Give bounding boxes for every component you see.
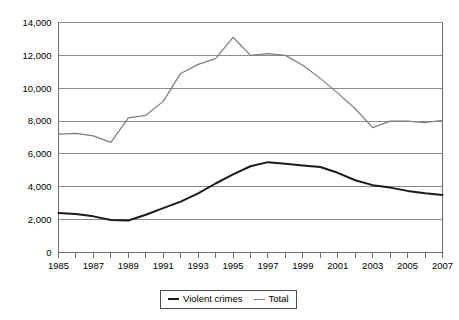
legend-label-violent-crimes: Violent crimes [183,293,243,305]
y-tick-label: 4,000 [28,181,52,192]
legend-item-violent-crimes: Violent crimes [168,293,243,305]
x-tick-label: 1993 [188,260,209,271]
x-tick-label: 2007 [432,260,453,271]
line-chart: 02,0004,0006,0008,00010,00012,00014,000 … [0,0,459,320]
x-tick-label: 1991 [153,260,174,271]
x-tick-label: 1995 [222,260,243,271]
x-tick-label: 1999 [292,260,313,271]
y-tick-label: 2,000 [28,214,52,225]
x-tick-label: 2003 [362,260,383,271]
y-tick-label: 14,000 [22,17,51,28]
legend-line-icon-total [254,299,265,300]
x-tick-label: 1987 [83,260,104,271]
x-tick-label: 1985 [48,260,69,271]
legend-item-total: Total [254,293,289,305]
y-tick-label: 0 [46,247,51,258]
y-tick-label: 10,000 [22,83,51,94]
y-tick-label: 6,000 [28,148,52,159]
gridlines [59,23,443,220]
x-axis-ticks [59,253,443,258]
y-tick-label: 12,000 [22,50,51,61]
series-line-violent-crimes [59,162,443,220]
chart-container: 02,0004,0006,0008,00010,00012,00014,000 … [0,0,459,320]
x-tick-label: 2005 [397,260,418,271]
x-axis-tick-labels: 1985198719891991199319951997199920012003… [48,260,453,271]
plot-frame [59,22,443,257]
y-tick-label: 8,000 [28,115,52,126]
chart-legend: Violent crimes Total [160,290,297,309]
legend-line-icon-violent-crimes [168,298,179,300]
x-tick-label: 2001 [327,260,348,271]
data-series [59,37,443,220]
x-tick-label: 1997 [257,260,278,271]
x-tick-label: 1989 [118,260,139,271]
series-line-total [59,37,443,142]
legend-label-total: Total [269,293,289,305]
y-axis-tick-labels: 02,0004,0006,0008,00010,00012,00014,000 [22,17,51,258]
